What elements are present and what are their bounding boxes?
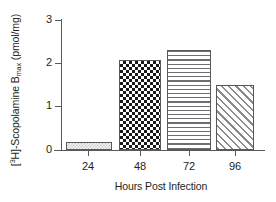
y-axis-label-3: 3 xyxy=(36,14,52,25)
plot-area xyxy=(62,20,258,150)
y-axis-tick-3 xyxy=(55,20,61,21)
x-axis-tick-48 xyxy=(140,151,141,156)
y-axis-tick-1 xyxy=(55,106,61,107)
y-axis-tick-0 xyxy=(55,150,61,151)
y-axis-label-0: 0 xyxy=(36,144,52,155)
y-axis-title-superscript: 3 xyxy=(8,159,17,163)
y-axis-title-prefix: [ xyxy=(9,163,21,166)
x-axis-label-24: 24 xyxy=(68,160,108,172)
x-axis-label-72: 72 xyxy=(169,160,209,172)
y-axis-label-2: 2 xyxy=(36,57,52,68)
bar-72 xyxy=(167,50,211,150)
x-axis-line xyxy=(54,150,265,151)
x-axis-tick-72 xyxy=(189,151,190,156)
bar-24 xyxy=(66,142,112,150)
x-axis-label-96: 96 xyxy=(215,160,255,172)
bar-48 xyxy=(119,60,161,150)
y-axis-tick-2 xyxy=(55,63,61,64)
y-axis-title-subscript: max xyxy=(14,63,23,76)
y-axis-title-element: H]-Scopolamine B xyxy=(9,76,21,159)
y-axis-title: [3H]-Scopolamine Bmax (pmol/mg) xyxy=(7,5,23,175)
x-axis-tick-24 xyxy=(88,151,89,156)
bar-chart-figure: [3H]-Scopolamine Bmax (pmol/mg) 3 2 1 0 … xyxy=(0,0,276,202)
x-axis-title: Hours Post Infection xyxy=(50,180,272,192)
bar-96 xyxy=(216,85,254,150)
y-axis-title-units: (pmol/mg) xyxy=(9,14,21,63)
x-axis-tick-96 xyxy=(235,151,236,156)
y-axis-label-1: 1 xyxy=(36,100,52,111)
x-axis-label-48: 48 xyxy=(120,160,160,172)
